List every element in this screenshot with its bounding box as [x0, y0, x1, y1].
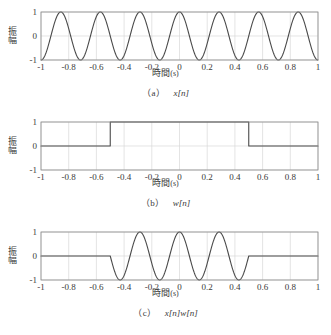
- panel-a-xlabel: 時間(s): [0, 66, 331, 79]
- panel-b-caption-id: （b）: [141, 198, 165, 208]
- panel-b-xlabel-unit: (s): [170, 179, 178, 188]
- panel-a: 振幅 -1-0.8-0.6-0.4-0.200.20.40.60.81-101 …: [0, 0, 331, 110]
- panel-a-xlabel-text: 時間: [152, 68, 170, 78]
- svg-text:-1: -1: [30, 55, 38, 65]
- panel-c-xlabel-text: 時間: [152, 288, 170, 298]
- panel-c-xlabel: 時間(s): [0, 286, 331, 299]
- svg-text:0: 0: [33, 31, 38, 41]
- svg-text:0: 0: [33, 141, 38, 151]
- panel-c-xlabel-unit: (s): [170, 289, 178, 298]
- svg-text:1: 1: [33, 7, 38, 17]
- signal-processing-figure: 振幅 -1-0.8-0.6-0.4-0.200.20.40.60.81-101 …: [0, 0, 331, 335]
- panel-a-caption: （a）x[n]: [0, 86, 331, 99]
- panel-a-caption-expr: x[n]: [174, 88, 190, 98]
- panel-b-caption-expr: w[n]: [173, 198, 191, 208]
- panel-b: 振幅 -1-0.8-0.6-0.4-0.200.20.40.60.81-101 …: [0, 110, 331, 220]
- panel-c-caption-id: （c）: [133, 308, 157, 318]
- svg-text:1: 1: [33, 227, 38, 237]
- svg-text:1: 1: [33, 117, 38, 127]
- panel-b-xlabel: 時間(s): [0, 176, 331, 189]
- panel-c-caption: （c）x[n]w[n]: [0, 306, 331, 319]
- svg-text:-1: -1: [30, 165, 38, 175]
- panel-c: 振幅 -1-0.8-0.6-0.4-0.200.20.40.60.81-101 …: [0, 220, 331, 330]
- panel-b-caption: （b）w[n]: [0, 196, 331, 209]
- panel-c-caption-expr: x[n]w[n]: [165, 308, 198, 318]
- panel-a-xlabel-unit: (s): [170, 69, 178, 78]
- panel-a-caption-id: （a）: [142, 88, 166, 98]
- svg-text:0: 0: [33, 251, 38, 261]
- panel-b-xlabel-text: 時間: [152, 178, 170, 188]
- svg-text:-1: -1: [30, 275, 38, 285]
